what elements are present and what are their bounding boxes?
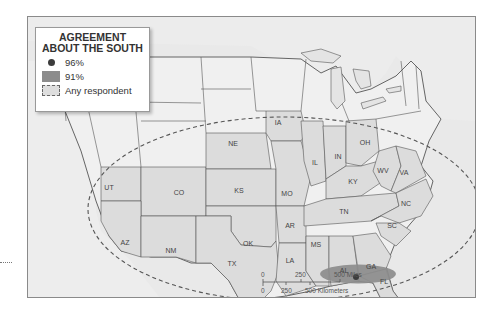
state-label-nm: NM [166,247,177,254]
state-label-co: CO [174,189,185,196]
dot-swatch-icon [42,57,60,68]
state-label-ok: OK [243,240,253,247]
scale-miles-500: 500 Miles [334,271,363,278]
dashed-swatch-icon [42,85,60,96]
state-label-ky: KY [348,178,358,185]
state-label-fl: FL [380,278,388,285]
scale-km-500: 500 Kilometers [305,287,349,294]
state-label-ne: NE [228,140,238,147]
state-label-wv: WV [377,167,389,174]
state-label-mo: MO [281,190,293,197]
state-label-ga: GA [366,263,376,270]
state-label-tn: TN [339,208,348,215]
legend-label-91: 91% [65,71,84,82]
stipple-swatch-icon [42,71,60,82]
state-label-ut: UT [104,184,114,191]
state-label-ks: KS [234,187,244,194]
state-label-in: IN [335,153,342,160]
scale-miles-0: 0 [261,271,265,278]
scale-km-0: 0 [261,287,265,294]
state-label-va: VA [400,169,409,176]
state-label-ms: MS [311,241,322,248]
scale-miles-250: 250 [295,271,306,278]
state-label-il: IL [312,159,318,166]
state-label-la: LA [286,257,295,264]
state-label-az: AZ [121,239,131,246]
legend-item-any: Any respondent [42,85,143,96]
state-label-ia: IA [275,119,282,126]
state-label-ar: AR [285,222,295,229]
legend-label-any: Any respondent [65,85,132,96]
legend-label-96: 96% [65,57,84,68]
legend-title-line2: ABOUT THE SOUTH [42,43,143,54]
state-label-oh: OH [360,139,371,146]
legend-item-91: 91% [42,71,143,82]
scale-km-250: 250 [281,287,292,294]
state-label-nc: NC [401,200,411,207]
legend-item-96: 96% [42,57,143,68]
legend-title: AGREEMENT ABOUT THE SOUTH [42,32,143,54]
state-label-sc: SC [387,222,397,229]
state-label-tx: TX [228,260,237,267]
leader-dots [0,262,12,263]
map-legend: AGREEMENT ABOUT THE SOUTH 96% 91% Any re… [35,27,150,112]
